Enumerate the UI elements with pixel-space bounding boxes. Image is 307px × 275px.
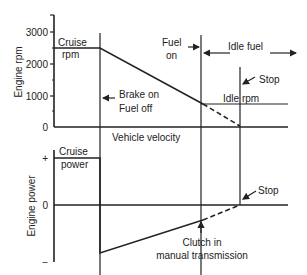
cruise-rpm-label-2: rpm [62,49,79,60]
tick-3000: 3000 [26,27,49,38]
brake-on-label: Brake on [119,89,159,100]
clutch-label: Clutch in [183,237,222,248]
power-dashed [203,205,240,220]
rpm-dashed [203,104,240,126]
tick-1000: 1000 [26,91,49,102]
stop-label: Stop [259,74,280,85]
fuel-on-label-2: on [166,50,177,61]
y-label: Engine rpm [13,46,24,97]
bottom-chart [54,150,288,262]
tick-0: 0 [42,122,48,133]
bottom-labels: Engine power + 0 − Cruise power Stop Clu… [26,146,279,268]
x-label: Vehicle velocity [112,132,180,143]
cruise-rpm-label: Cruise [58,37,87,48]
fuel-on-label: Fuel [162,37,181,48]
tick-minus: − [42,257,48,268]
tick-plus: + [42,153,48,164]
clutch-label-2: manual transmission [156,250,248,261]
fuel-off-label: Fuel off [119,103,152,114]
cruise-power-label: Cruise [59,146,88,157]
idle-rpm-label: Idle rpm [223,93,259,104]
idle-fuel-label: Idle fuel [228,41,263,52]
tick-zero: 0 [42,200,48,211]
tick-2000: 2000 [26,59,49,70]
stop-label-bottom: Stop [258,185,279,196]
cruise-power-label-2: power [61,159,89,170]
y-label-bottom: Engine power [26,175,37,237]
engine-braking-diagram: Engine rpm 3000 2000 1000 0 Cruise rpm B… [0,0,307,275]
